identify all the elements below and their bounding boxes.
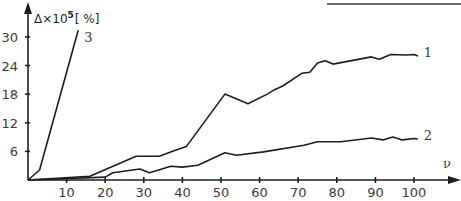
y-axis-label: Δ×105[ %] — [34, 10, 99, 26]
x-axis-label: ν — [443, 156, 451, 171]
x-tick-label: 20 — [97, 185, 114, 200]
y-tick-label: 30 — [1, 30, 18, 45]
curve-3 — [28, 30, 78, 180]
x-tick-label: 100 — [402, 185, 427, 200]
series-label-1: 1 — [424, 45, 432, 60]
labels: 123 — [84, 30, 432, 143]
x-axis-arrow-icon — [448, 176, 461, 184]
curve-2 — [28, 137, 418, 180]
y-axis-arrow-icon — [24, 2, 32, 14]
x-tick-label: 10 — [58, 185, 75, 200]
series-label-3: 3 — [84, 30, 92, 45]
line-chart: 102030405060708090100612182430Δ×105[ %]ν… — [0, 0, 461, 201]
y-tick-label: 12 — [1, 116, 18, 131]
axes: 102030405060708090100612182430Δ×105[ %]ν — [1, 2, 461, 200]
curve-1 — [28, 55, 418, 181]
x-tick-label: 80 — [329, 185, 346, 200]
y-tick-label: 24 — [1, 59, 18, 74]
series-label-2: 2 — [424, 128, 432, 143]
curves — [28, 30, 418, 180]
x-tick-label: 30 — [136, 185, 153, 200]
x-tick-label: 60 — [251, 185, 268, 200]
y-tick-label: 18 — [1, 87, 18, 102]
x-tick-label: 90 — [367, 185, 384, 200]
x-tick-label: 50 — [213, 185, 230, 200]
x-tick-label: 70 — [290, 185, 307, 200]
x-tick-label: 40 — [174, 185, 191, 200]
y-tick-label: 6 — [10, 144, 18, 159]
